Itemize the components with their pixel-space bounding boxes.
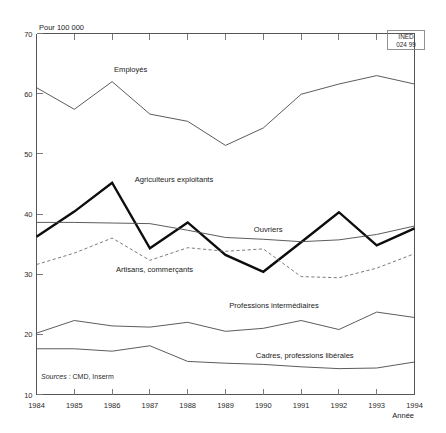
x-tick-label: 1987 [142, 401, 159, 410]
x-tick-label: 1993 [368, 401, 385, 410]
source-prefix: Sources [41, 373, 67, 380]
series-line-agriculteurs-exploitants [37, 183, 415, 272]
x-tick-label: 1994 [406, 401, 423, 410]
chart-container: 10203040506070 1984198519861987198819891… [0, 0, 446, 433]
y-tick-label: 30 [24, 270, 32, 279]
series-label-group: EmployésAgriculteurs exploitantsOuvriers… [114, 65, 354, 360]
y-tick-label: 40 [24, 210, 32, 219]
credit-line-2: 024 99 [396, 41, 416, 48]
series-label-employ-s: Employés [114, 65, 148, 74]
series-line-ouvriers [37, 222, 415, 241]
series-line-employ-s [37, 76, 415, 146]
y-tick-label: 60 [24, 90, 32, 99]
y-axis-ticks: 10203040506070 [24, 30, 42, 400]
x-tick-label: 1985 [66, 401, 83, 410]
x-tick-label: 1988 [179, 401, 196, 410]
x-tick-label: 1992 [331, 401, 348, 410]
y-tick-label: 10 [24, 391, 32, 400]
series-label-cadres-professions-lib-rales: Cadres, professions libérales [256, 351, 354, 360]
series-label-ouvriers: Ouvriers [254, 225, 283, 234]
x-tick-label: 1990 [255, 401, 272, 410]
x-tick-label: 1984 [28, 401, 45, 410]
series-line-cadres-professions-lib-rales [37, 346, 415, 369]
series-label-artisans-commer-ants: Artisans, commerçants [116, 265, 193, 274]
line-chart: 10203040506070 1984198519861987198819891… [0, 0, 446, 433]
series-label-agriculteurs-exploitants: Agriculteurs exploitants [135, 175, 214, 184]
series-label-professions-interm-diaires: Professions intermédiaires [229, 301, 319, 310]
y-axis-unit-label: Pour 100 000 [39, 23, 84, 32]
y-tick-label: 70 [24, 30, 32, 39]
y-tick-label: 20 [24, 330, 32, 339]
data-series-group [37, 76, 415, 369]
source-note: Sources : CMD, Inserm [41, 373, 114, 380]
plot-frame [37, 34, 415, 395]
credit-line-1: INED [398, 33, 414, 40]
source-rest: : CMD, Inserm [67, 373, 114, 380]
x-axis-ticks: 1984198519861987198819891990199119921993… [28, 34, 423, 410]
x-tick-label: 1989 [217, 401, 234, 410]
series-line-professions-interm-diaires [37, 312, 415, 333]
x-tick-label: 1986 [104, 401, 121, 410]
y-tick-label: 50 [24, 150, 32, 159]
x-tick-label: 1991 [293, 401, 310, 410]
x-axis-unit-label: Année [392, 411, 414, 420]
series-line-artisans-commer-ants [37, 238, 415, 278]
